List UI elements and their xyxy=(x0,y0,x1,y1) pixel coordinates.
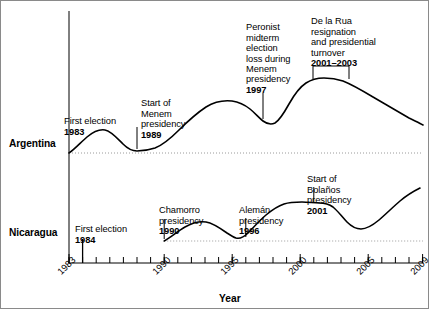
annotation-argentina-first-election: First election 1983 xyxy=(64,106,116,148)
annotation-year: 2001 xyxy=(307,206,351,216)
annotation-nicaragua-first-election: First election 1984 xyxy=(75,214,127,256)
annotation-text: Start of Menem presidency xyxy=(141,98,185,129)
series-label-nicaragua: Nicaragua xyxy=(9,227,57,238)
annotation-argentina-peronist-loss: Peronist midterm election loss during Me… xyxy=(246,12,290,106)
annotation-year: 1983 xyxy=(64,127,116,137)
annotation-year: 1989 xyxy=(141,130,185,140)
annotation-argentina-menem-start: Start of Menem presidency 1989 xyxy=(141,88,185,150)
annotation-text: Peronist midterm election loss during Me… xyxy=(246,22,290,84)
annotation-year: 2001–2003 xyxy=(311,58,376,68)
annotation-nicaragua-chamorro: Chamorro presidency 1990 xyxy=(159,195,203,247)
annotation-text: First election xyxy=(75,224,127,234)
series-label-argentina: Argentina xyxy=(9,138,56,149)
annotation-year: 1996 xyxy=(239,226,283,236)
x-axis-title: Year xyxy=(219,293,241,304)
annotation-year: 1990 xyxy=(159,226,203,236)
annotation-text: First election xyxy=(64,116,116,126)
chart-figure: Argentina Nicaragua First election 1983 … xyxy=(0,0,429,309)
annotation-year: 1984 xyxy=(75,235,127,245)
annotation-argentina-delarua: De la Rua resignation and presidential t… xyxy=(311,6,376,79)
annotation-text: Chamorro presidency xyxy=(159,205,203,225)
annotation-text: De la Rua resignation and presidential t… xyxy=(311,16,376,57)
annotation-text: Alemán presidency xyxy=(239,205,283,225)
annotation-nicaragua-bolanos: Start of Bolaños presidency 2001 xyxy=(307,164,351,226)
annotation-text: Start of Bolaños presidency xyxy=(307,174,351,205)
annotation-year: 1997 xyxy=(246,85,290,95)
annotation-nicaragua-aleman: Alemán presidency 1996 xyxy=(239,195,283,247)
